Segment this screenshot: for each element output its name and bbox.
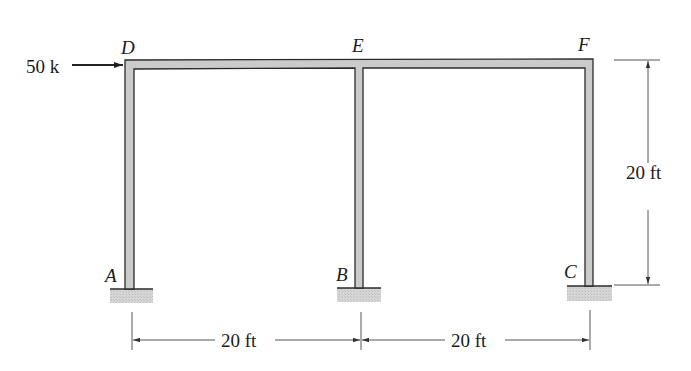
node-label-E: E xyxy=(352,36,364,55)
span-AB-label: 20 ft xyxy=(218,331,259,350)
height-dimension-label: 20 ft xyxy=(623,163,664,182)
node-label-B: B xyxy=(336,265,348,284)
support-C xyxy=(567,286,612,301)
node-label-F: F xyxy=(578,35,590,54)
load-label: 50 k xyxy=(26,57,59,76)
node-label-A: A xyxy=(105,266,117,285)
support-A xyxy=(110,289,153,303)
frame-members xyxy=(125,59,593,289)
support-B xyxy=(337,288,381,302)
span-BC-label: 20 ft xyxy=(448,331,489,350)
node-label-D: D xyxy=(121,38,135,57)
span-dimensions xyxy=(132,310,590,350)
frame-diagram xyxy=(0,0,691,371)
node-label-C: C xyxy=(564,262,577,281)
